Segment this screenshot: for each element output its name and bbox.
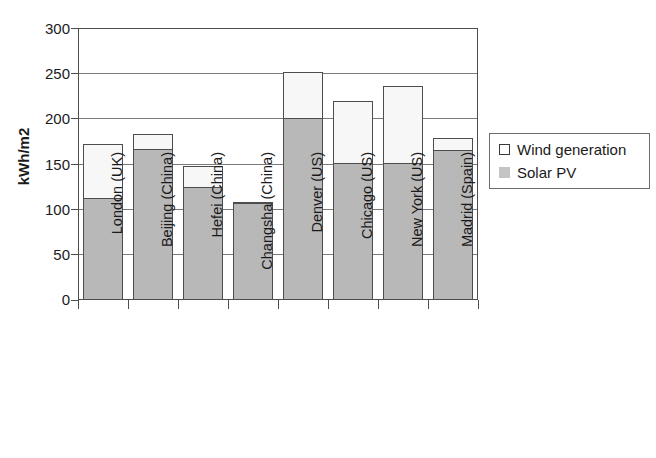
x-axis-label: Denver (US)	[309, 152, 325, 312]
x-tick-mark	[378, 300, 379, 309]
x-tick-mark	[328, 300, 329, 309]
x-tick-mark	[178, 300, 179, 309]
y-tick-label-100: 100	[10, 202, 70, 217]
legend: Wind generation Solar PV	[489, 133, 650, 189]
x-axis-label: Madrid (Spain)	[459, 152, 475, 312]
y-tick-label-0: 0	[10, 292, 70, 307]
y-tick-label-200: 200	[10, 111, 70, 126]
legend-swatch-wind-icon	[499, 144, 510, 155]
bar-segment-wind	[433, 138, 473, 152]
x-axis-label: New York (US)	[409, 152, 425, 312]
legend-item-solar-pv: Solar PV	[499, 164, 576, 181]
x-axis-label: Beijing (China)	[159, 152, 175, 312]
y-tick-label-150: 150	[10, 157, 70, 172]
legend-label-wind: Wind generation	[517, 141, 626, 158]
x-tick-mark	[228, 300, 229, 309]
x-axis-label: Hefei (China)	[209, 152, 225, 312]
y-tick-label-250: 250	[10, 66, 70, 81]
x-tick-mark	[478, 300, 479, 309]
y-tick-label-300: 300	[10, 21, 70, 36]
x-tick-mark	[278, 300, 279, 309]
bar-chart: kWh/m2 300 250 200 150 100 50 0 London (…	[0, 0, 656, 458]
legend-item-wind-generation: Wind generation	[499, 141, 626, 158]
y-tick-label-50: 50	[10, 247, 70, 262]
bar-segment-wind	[133, 134, 173, 149]
x-tick-mark	[78, 300, 79, 309]
bar-segment-wind	[283, 72, 323, 119]
x-axis-label: Chicago (US)	[359, 152, 375, 312]
x-tick-mark	[428, 300, 429, 309]
legend-swatch-solar-icon	[499, 167, 510, 178]
legend-label-solar: Solar PV	[517, 164, 576, 181]
x-axis-label: London (UK)	[109, 152, 125, 312]
x-tick-mark	[128, 300, 129, 309]
x-axis-label: Changsha (China)	[259, 152, 275, 312]
